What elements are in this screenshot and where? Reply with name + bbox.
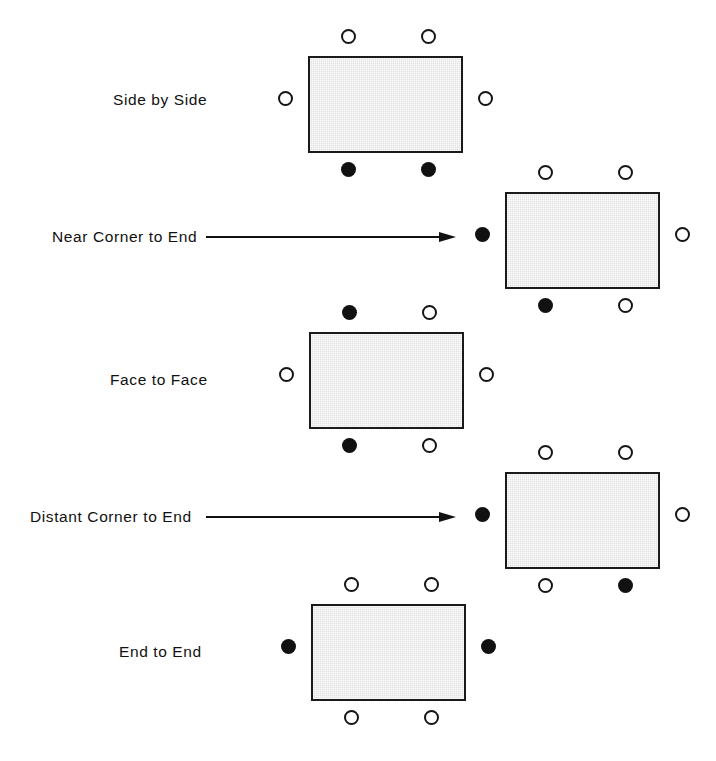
seat-top-left-open <box>344 577 359 592</box>
seat-right-filled <box>481 639 496 654</box>
configuration-row: End to End <box>0 0 716 761</box>
seating-configurations-diagram: Side by SideNear Corner to EndFace to Fa… <box>0 0 716 761</box>
seat-bottom-right-open <box>424 710 439 725</box>
seat-bottom-left-open <box>344 710 359 725</box>
seat-left-filled <box>281 639 296 654</box>
table-shape <box>311 604 466 701</box>
seat-top-right-open <box>424 577 439 592</box>
configuration-label: End to End <box>119 644 202 660</box>
